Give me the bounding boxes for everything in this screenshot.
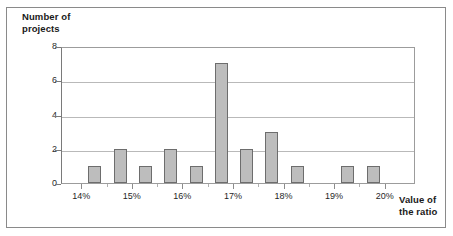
x-tick-minor-mark (107, 184, 108, 187)
bar (88, 166, 101, 183)
y-tick-label: 0 (35, 178, 57, 188)
x-tick-label: 19% (314, 191, 354, 201)
x-tick-minor-mark (258, 184, 259, 187)
x-tick-minor-mark (359, 184, 360, 187)
y-tick-label: 2 (35, 144, 57, 154)
bar (114, 149, 127, 183)
x-tick-mark (81, 184, 82, 189)
x-tick-label: 18% (264, 191, 304, 201)
bar (341, 166, 354, 183)
x-tick-label: 14% (61, 191, 101, 201)
x-tick-label: 15% (112, 191, 152, 201)
x-tick-minor-mark (157, 184, 158, 187)
x-tick-mark (284, 184, 285, 189)
y-tick-mark (55, 81, 61, 82)
x-tick-label: 20% (365, 191, 405, 201)
y-tick-label: 8 (35, 41, 57, 51)
x-tick-label: 16% (162, 191, 202, 201)
y-tick-mark (55, 47, 61, 48)
x-tick-mark (132, 184, 133, 189)
y-axis-title: Number of projects (22, 11, 70, 34)
x-tick-minor-mark (309, 184, 310, 187)
bar (164, 149, 177, 183)
y-tick-mark (55, 184, 61, 185)
y-tick-label: 4 (35, 110, 57, 120)
x-tick-mark (334, 184, 335, 189)
bar (265, 132, 278, 183)
bar (240, 149, 253, 183)
x-tick-label: 17% (213, 191, 253, 201)
x-tick-minor-mark (208, 184, 209, 187)
bar (291, 166, 304, 183)
bar-series (62, 48, 414, 183)
plot-area (61, 47, 415, 184)
chart-figure: Number of projects Value of the ratio 02… (0, 0, 453, 236)
bar (215, 63, 228, 183)
bar (367, 166, 380, 183)
x-tick-mark (182, 184, 183, 189)
x-tick-mark (385, 184, 386, 189)
bar (190, 166, 203, 183)
x-tick-mark (233, 184, 234, 189)
x-axis-title: Value of the ratio (399, 194, 437, 217)
y-tick-mark (55, 116, 61, 117)
y-tick-label: 6 (35, 75, 57, 85)
y-tick-mark (55, 150, 61, 151)
bar (139, 166, 152, 183)
